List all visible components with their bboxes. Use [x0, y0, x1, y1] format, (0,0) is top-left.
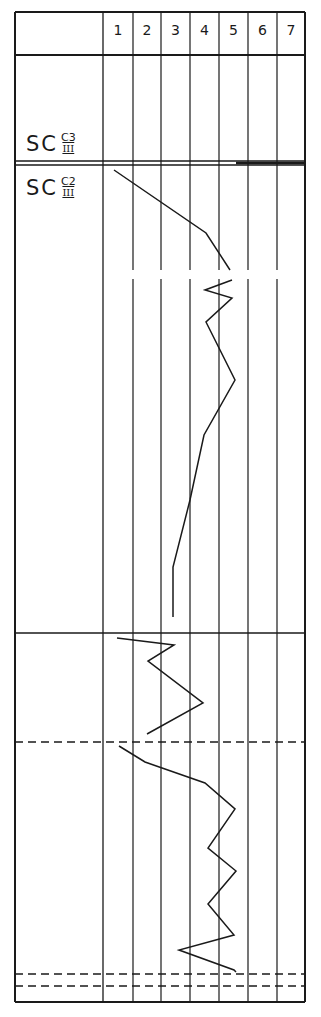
row-label-sc-c2-iii: SCC2III: [26, 176, 76, 200]
row-label-main: SC: [26, 132, 58, 156]
profile-segment-1-line: [114, 170, 230, 270]
column-label-1: 1: [103, 22, 133, 38]
row-label-sub: III: [61, 143, 76, 154]
row-label-stack: C2III: [61, 176, 76, 198]
row-label-sc-c3-iii: SCC3III: [26, 132, 76, 156]
column-label-5: 5: [219, 22, 248, 38]
row-label-stack: C3III: [61, 132, 76, 154]
profile-segment-1b-line: [173, 280, 235, 617]
row-label-sub: III: [61, 187, 76, 198]
column-label-2: 2: [133, 22, 161, 38]
column-label-6: 6: [248, 22, 277, 38]
column-label-7: 7: [277, 22, 305, 38]
column-label-3: 3: [161, 22, 190, 38]
row-label-main: SC: [26, 176, 58, 200]
column-label-4: 4: [190, 22, 219, 38]
row-label-sup: C3: [61, 132, 76, 143]
row-label-sup: C2: [61, 176, 76, 187]
